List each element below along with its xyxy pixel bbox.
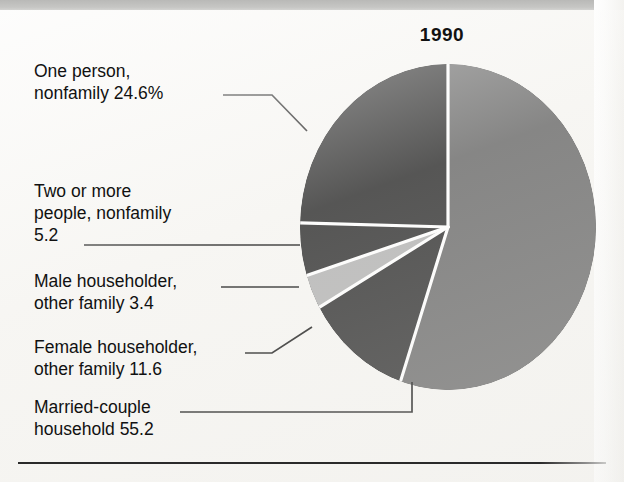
label-male-householder-line1: Male householder, xyxy=(34,270,177,292)
label-one-person-line1: One person, xyxy=(34,60,163,82)
chart-page: 1990 One person, nonfamily 24.6% Two or … xyxy=(0,0,624,482)
label-male-householder: Male householder, other family 3.4 xyxy=(34,270,177,314)
label-one-person-line2: nonfamily 24.6% xyxy=(34,82,163,104)
label-married-couple-line2: household 55.2 xyxy=(34,418,154,440)
leader-line-one-person xyxy=(223,95,307,131)
label-two-or-more-line2: people, nonfamily xyxy=(34,202,171,224)
label-two-or-more-line1: Two or more xyxy=(34,180,171,202)
label-married-couple-household: Married-couple household 55.2 xyxy=(34,396,154,440)
chart-title: 1990 xyxy=(382,24,502,46)
leader-line-female-householder xyxy=(245,327,312,353)
label-female-householder: Female householder, other family 11.6 xyxy=(34,336,197,380)
label-female-householder-line2: other family 11.6 xyxy=(34,358,197,380)
pie-slice-one-person-nonfamily xyxy=(300,64,448,227)
bottom-horizontal-rule-fade xyxy=(540,462,606,464)
label-two-or-more-line3: 5.2 xyxy=(34,224,171,246)
label-one-person-nonfamily: One person, nonfamily 24.6% xyxy=(34,60,163,104)
label-male-householder-line2: other family 3.4 xyxy=(34,292,177,314)
leader-line-married-couple xyxy=(180,382,412,412)
label-two-or-more-nonfamily: Two or more people, nonfamily 5.2 xyxy=(34,180,171,246)
label-female-householder-line1: Female householder, xyxy=(34,336,197,358)
label-married-couple-line1: Married-couple xyxy=(34,396,154,418)
bottom-horizontal-rule xyxy=(18,462,606,464)
